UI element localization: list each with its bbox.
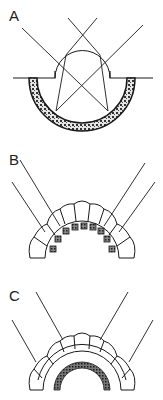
simple-eye-diagram <box>0 0 163 140</box>
panel-b: B <box>0 140 163 270</box>
panel-c: C <box>0 270 163 400</box>
apposition-eye-diagram <box>0 140 163 270</box>
panel-a: A <box>0 0 163 140</box>
superposition-eye-diagram <box>0 270 163 400</box>
